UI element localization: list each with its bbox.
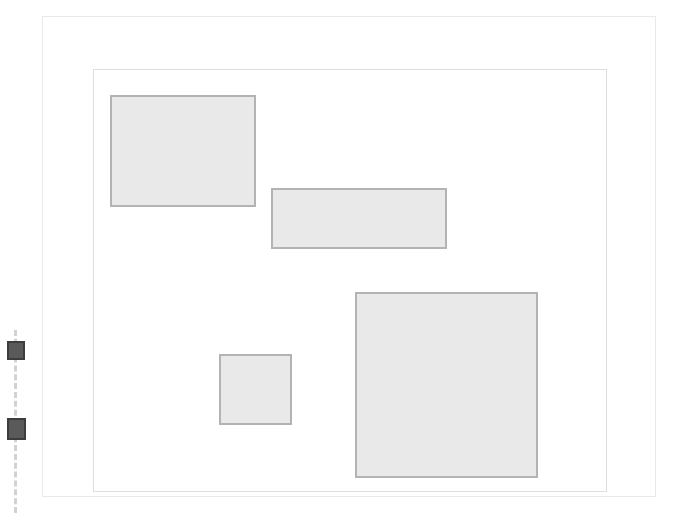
marker-upper[interactable]	[7, 341, 25, 360]
region-upper-middle-wide[interactable]	[271, 188, 447, 249]
region-lower-left-small[interactable]	[219, 354, 292, 425]
region-top-left[interactable]	[110, 95, 256, 207]
region-bottom-right-large[interactable]	[355, 292, 538, 478]
diagram-canvas	[0, 0, 695, 513]
marker-lower[interactable]	[7, 418, 26, 440]
